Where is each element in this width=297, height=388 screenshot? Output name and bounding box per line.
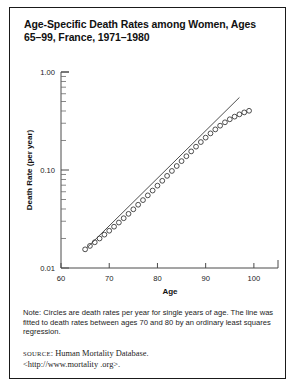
x-axis-title: Age [162, 287, 178, 296]
data-point-markers [83, 108, 252, 251]
regression-line [88, 97, 240, 247]
svg-text:90: 90 [201, 274, 209, 283]
svg-text:70: 70 [105, 274, 113, 283]
svg-text:0.01: 0.01 [40, 264, 55, 273]
figure-source: SOURCE: Human Mortality Database. <http:… [23, 349, 275, 370]
y-axis-title: Death Rate (per year) [25, 129, 34, 210]
source-text: : Human Mortality Database. [51, 349, 149, 358]
svg-text:80: 80 [153, 274, 161, 283]
x-axis-tick-labels: 60708090100 [57, 274, 260, 283]
svg-text:60: 60 [57, 274, 65, 283]
y-axis-minor-ticks [61, 76, 66, 238]
figure-panel: Age-Specific Death Rates among Women, Ag… [9, 7, 286, 379]
svg-text:1.00: 1.00 [40, 68, 55, 77]
svg-text:100: 100 [248, 274, 261, 283]
x-axis-ticks [61, 263, 254, 268]
svg-text:0.10: 0.10 [40, 166, 55, 175]
chart-svg: 0.010.101.00 60708090100 Age Death Rate … [10, 8, 287, 298]
source-url: <http://www.mortality .org>. [23, 360, 120, 369]
figure-note: Note: Circles are death rates per year f… [23, 308, 275, 337]
y-axis-tick-labels: 0.010.101.00 [40, 68, 55, 273]
source-label: SOURCE [23, 350, 51, 357]
